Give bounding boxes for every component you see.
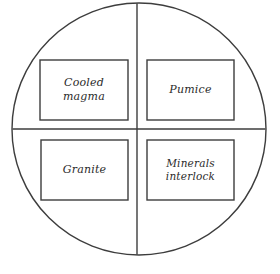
quadrant-box-bottom-right [147, 140, 234, 200]
circle-quadrant-diagram [0, 0, 280, 274]
quadrant-box-bottom-left [41, 140, 128, 200]
diagram-canvas: Cooled magma Pumice Granite Minerals int… [0, 0, 280, 274]
quadrant-box-top-right [147, 60, 234, 120]
quadrant-box-top-left [40, 60, 128, 120]
